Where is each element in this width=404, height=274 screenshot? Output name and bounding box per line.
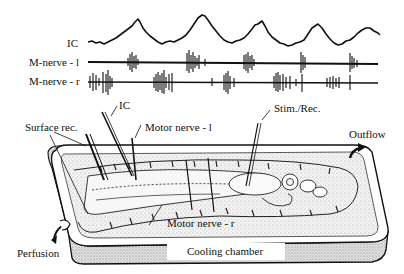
- label-stim-rec: Stim./Rec.: [274, 102, 320, 114]
- perfusion-arrow-icon: [51, 220, 70, 244]
- label-perfusion: Perfusion: [17, 247, 59, 259]
- label-motor-nerve-l: Motor nerve - l: [145, 121, 212, 133]
- diagram-canvas: [0, 0, 404, 274]
- m-nerve-l-trace: [88, 50, 378, 73]
- label-cooling-chamber: Cooling chamber: [187, 245, 263, 257]
- label-surface-rec: Surface rec.: [25, 121, 78, 133]
- m-nerve-r-trace: [88, 70, 378, 95]
- label-ic-electrode: IC: [119, 99, 130, 111]
- ic-trace: [88, 15, 380, 46]
- label-motor-nerve-r: Motor nerve - r: [167, 217, 235, 229]
- label-outflow: Outflow: [349, 128, 386, 140]
